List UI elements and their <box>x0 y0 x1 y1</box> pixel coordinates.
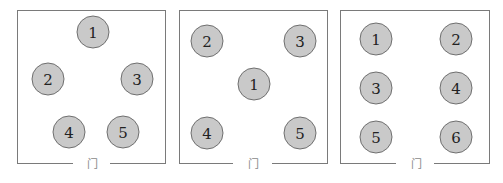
wall-bottom-left <box>17 163 73 164</box>
wall-bottom-right <box>434 163 490 164</box>
wall-right <box>165 10 166 164</box>
seat-circle: 5 <box>284 117 317 150</box>
room-1: 门12345 <box>17 10 166 164</box>
seat-circle: 6 <box>440 121 473 154</box>
seat-circle: 2 <box>440 23 473 56</box>
seat-circle: 3 <box>360 72 393 105</box>
wall-top <box>17 10 166 11</box>
seat-circle: 2 <box>191 25 224 58</box>
seat-circle: 1 <box>360 23 393 56</box>
wall-bottom-left <box>340 163 396 164</box>
seat-circle: 4 <box>53 116 86 149</box>
wall-bottom-right <box>110 163 166 164</box>
wall-left <box>17 10 18 164</box>
wall-right <box>489 10 490 164</box>
seat-circle: 3 <box>284 25 317 58</box>
seat-circle: 3 <box>121 63 154 96</box>
wall-right <box>327 10 328 164</box>
room-2: 门23145 <box>179 10 328 164</box>
wall-top <box>340 10 490 11</box>
seat-circle: 5 <box>360 121 393 154</box>
seat-circle: 4 <box>191 117 224 150</box>
door-label: 门 <box>248 159 259 170</box>
door-label: 门 <box>87 159 98 170</box>
wall-top <box>179 10 328 11</box>
seat-circle: 5 <box>107 116 140 149</box>
room-3: 门123456 <box>340 10 490 164</box>
seat-circle: 2 <box>32 63 65 96</box>
wall-bottom-left <box>179 163 233 164</box>
seat-circle: 4 <box>440 72 473 105</box>
wall-left <box>179 10 180 164</box>
wall-left <box>340 10 341 164</box>
door-label: 门 <box>411 159 422 170</box>
seat-circle: 1 <box>238 68 271 101</box>
seat-circle: 1 <box>77 16 110 49</box>
wall-bottom-right <box>272 163 328 164</box>
